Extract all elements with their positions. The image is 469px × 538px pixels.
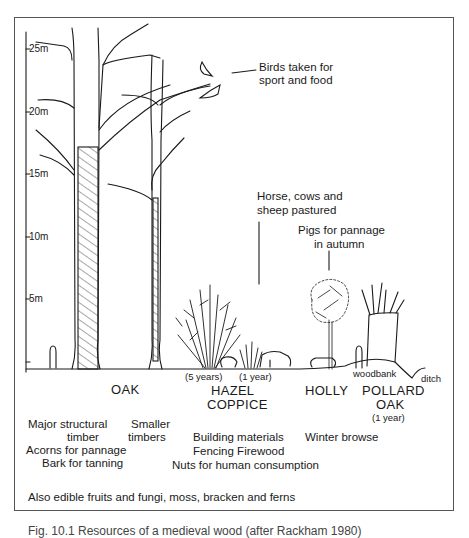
species-title-pollard-line2: OAK xyxy=(376,398,404,413)
pollard-age-1yr: (1 year) xyxy=(372,413,405,424)
sheep-icon xyxy=(221,357,237,367)
oak-use-2: Acorns for pannage xyxy=(26,444,126,457)
small-oak-use-2: timbers xyxy=(128,431,166,444)
livestock-annotation-line2: sheep pastured xyxy=(257,204,336,217)
oak-timber-section xyxy=(78,147,98,369)
footer-note: Also edible fruits and fungi, moss, brac… xyxy=(28,491,295,504)
woodbank-label: woodbank xyxy=(353,369,396,380)
tick-label-5m: 5m xyxy=(29,293,43,305)
small-oak-timber-section xyxy=(153,198,158,361)
tick-label-10m: 10m xyxy=(29,231,48,243)
oak-use-1: Major structural xyxy=(28,418,107,431)
birds-annotation-line1: Birds taken for xyxy=(259,61,333,74)
pigs-annotation-line2: in autumn xyxy=(314,238,365,251)
person-figure-left xyxy=(50,346,56,368)
hazel-age-5yr: (5 years) xyxy=(185,372,222,383)
pollard-oak-tree xyxy=(362,283,404,366)
oak-use-1b: timber xyxy=(67,431,99,444)
hazel-age-1yr: (1 year) xyxy=(239,372,272,383)
birds-annotation-line2: sport and food xyxy=(259,74,333,87)
tick-label-20m: 20m xyxy=(29,106,48,118)
tick-label-15m: 15m xyxy=(29,168,48,180)
species-title-oak: OAK xyxy=(111,383,139,398)
bird-icon-1 xyxy=(200,62,212,76)
figure-caption: Fig. 10.1 Resources of a medieval wood (… xyxy=(28,524,362,538)
height-scale-axis xyxy=(26,32,30,372)
oak-tree-large xyxy=(36,24,210,369)
hazel-coppice-5yr xyxy=(176,285,240,368)
species-title-holly: HOLLY xyxy=(305,384,348,399)
livestock-annotation-line1: Horse, cows and xyxy=(257,190,343,203)
birds-leader-line xyxy=(232,70,256,73)
tick-label-25m: 25m xyxy=(29,43,48,55)
species-title-hazel-line2: COPPICE xyxy=(207,398,268,413)
hazel-use-3: Nuts for human consumption xyxy=(172,459,319,472)
cow-icon xyxy=(260,351,291,367)
pigs-annotation-line1: Pigs for pannage xyxy=(298,224,385,237)
person-figure-right xyxy=(356,346,362,368)
hazel-use-1: Building materials xyxy=(193,431,284,444)
holly-use-1: Winter browse xyxy=(305,431,379,444)
oak-use-3: Bark for tanning xyxy=(42,457,123,470)
small-oak-use-1: Smaller xyxy=(131,418,170,431)
holly-tree xyxy=(311,279,349,369)
hazel-coppice-1yr xyxy=(240,342,262,368)
hazel-use-2: Fencing Firewood xyxy=(193,445,284,458)
